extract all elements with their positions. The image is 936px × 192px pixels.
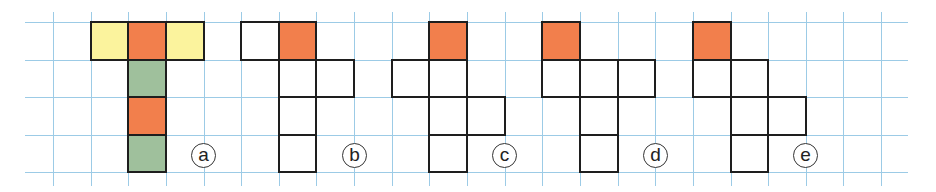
cell-orange — [127, 21, 167, 61]
cell-white — [466, 96, 506, 136]
cell-white — [730, 59, 769, 98]
cell-white — [579, 96, 619, 136]
grid-vertical-line — [392, 12, 393, 186]
figure-label-b: b — [342, 143, 367, 168]
cell-white — [730, 96, 769, 136]
cell-white — [278, 134, 317, 173]
cell-white — [692, 59, 732, 98]
cell-yellow — [90, 21, 129, 61]
grid-vertical-line — [881, 12, 882, 186]
cell-white — [428, 96, 468, 136]
grid-vertical-line — [53, 12, 54, 186]
cell-white — [428, 134, 468, 173]
cell-white — [730, 134, 769, 173]
cell-white — [617, 59, 656, 98]
cell-white — [579, 59, 619, 98]
cell-green — [127, 59, 167, 98]
cell-orange — [428, 21, 468, 61]
cell-white — [278, 96, 317, 136]
cell-yellow — [165, 21, 205, 61]
figure-label-c: c — [492, 143, 517, 168]
cell-white — [579, 134, 619, 173]
cell-orange — [692, 21, 732, 61]
cell-orange — [541, 21, 581, 61]
cell-white — [428, 59, 468, 98]
cell-orange — [278, 21, 317, 61]
cell-white — [240, 21, 280, 61]
figure-label-e: e — [793, 143, 818, 168]
cell-white — [391, 59, 430, 98]
grid-diagram: abcde — [0, 0, 936, 192]
cell-white — [541, 59, 581, 98]
cell-orange — [127, 96, 167, 136]
figure-label-a: a — [191, 143, 216, 168]
cell-white — [767, 96, 807, 136]
cell-white — [278, 59, 317, 98]
figure-label-d: d — [643, 143, 668, 168]
grid-vertical-line — [843, 12, 844, 186]
cell-white — [315, 59, 355, 98]
cell-green — [127, 134, 167, 173]
